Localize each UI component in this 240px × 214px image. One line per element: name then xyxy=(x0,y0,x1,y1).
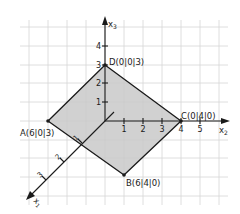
point-a xyxy=(46,119,50,123)
x1-tick-label: 3 xyxy=(36,171,45,180)
x1-axis-label: x1 xyxy=(31,196,44,209)
x3-tick-label: 2 xyxy=(96,79,101,88)
point-b xyxy=(122,173,126,177)
point-a-label: A(6|0|3) xyxy=(20,128,54,138)
x2-tick-label: 2 xyxy=(141,125,146,134)
point-d xyxy=(103,63,107,67)
x1-tick-label: 2 xyxy=(54,153,63,162)
x2-axis-arrow-icon xyxy=(221,118,230,124)
x2-tick-label: 5 xyxy=(198,125,203,134)
x2-tick-label: 3 xyxy=(160,125,165,134)
x3-tick-label: 4 xyxy=(96,42,101,51)
x3-tick-label: 3 xyxy=(96,61,101,70)
x2-tick-label: 4 xyxy=(179,125,184,134)
x3-tick-label: 1 xyxy=(96,98,101,107)
x2-axis-label: x2 xyxy=(219,125,228,136)
x2-tick-label: 1 xyxy=(122,125,127,134)
point-b-label: B(6|4|0) xyxy=(126,178,160,188)
x3-axis-label: x3 xyxy=(108,19,117,30)
point-c-label: C(0|4|0) xyxy=(181,111,216,121)
coordinate-diagram: 1 2 3 4 1 2 3 4 5 1 2 3 x3 x2 x1 A(6|0|3… xyxy=(0,0,240,214)
point-d-label: D(0|0|3) xyxy=(109,57,144,67)
